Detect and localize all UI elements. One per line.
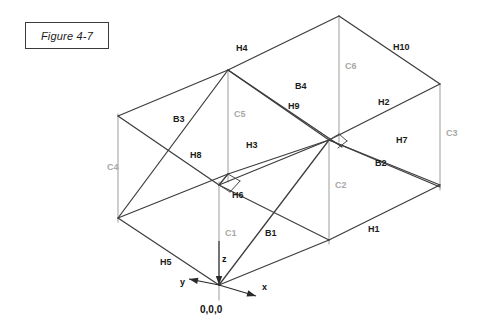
column-label-C1: C1 (225, 228, 237, 238)
structural-frame-diagram: H4H10B4H9H2B3H7H8H3B2H6B1H1H5C6C3C5C4C2C… (0, 0, 478, 336)
beam-H2 (329, 84, 440, 140)
beam-label-B1: B1 (265, 228, 277, 238)
column-label-C3: C3 (446, 128, 458, 138)
beam-mid5 (329, 134, 339, 140)
beam-label-H10: H10 (393, 42, 410, 52)
beam-H5 (118, 218, 219, 285)
column-label-C4: C4 (107, 162, 119, 172)
axis-x-arrowhead (246, 290, 256, 296)
beam-label-H2: H2 (378, 97, 390, 107)
axis-label-z: z (222, 254, 227, 264)
axis-y-arrowhead (189, 278, 198, 284)
beam-label-H6: H6 (232, 190, 244, 200)
column-label-C2: C2 (335, 180, 347, 190)
beam-label-H1: H1 (368, 224, 380, 234)
beam-label-H3: H3 (246, 140, 258, 150)
axis-label-y: y (180, 277, 185, 287)
beam-label-H7: H7 (396, 135, 408, 145)
beam-mid6 (339, 134, 347, 141)
beam-label-H8: H8 (190, 150, 202, 160)
beam-H8b (228, 140, 329, 174)
beam-label-H5: H5 (160, 257, 172, 267)
beam-H10 (339, 16, 440, 84)
column-label-C5: C5 (234, 109, 246, 119)
beam-H1 (329, 185, 440, 240)
beam-label-H4: H4 (236, 43, 248, 53)
column-label-C6: C6 (345, 61, 357, 71)
beam-label-B2: B2 (375, 158, 387, 168)
beam-label-H9: H9 (288, 101, 300, 111)
beam-label-B4: B4 (295, 81, 307, 91)
axis-label-x: x (262, 282, 267, 292)
beam-mid4 (219, 185, 230, 192)
origin-label: 0,0,0 (200, 304, 223, 315)
beams-layer (118, 16, 440, 285)
labels-layer: H4H10B4H9H2B3H7H8H3B2H6B1H1H5C6C3C5C4C2C… (107, 42, 458, 315)
beam-label-B3: B3 (173, 114, 185, 124)
